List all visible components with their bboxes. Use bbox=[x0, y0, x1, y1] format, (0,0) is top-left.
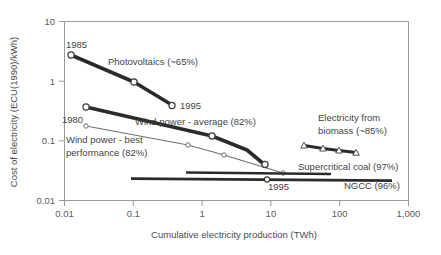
x-tick-label: 1 bbox=[199, 208, 204, 219]
y-axis-ticks bbox=[59, 22, 65, 201]
x-axis-ticks bbox=[65, 201, 409, 207]
annotation-photovoltaics: Photovoltaics (~65%) bbox=[108, 56, 198, 67]
annotation-wind-average: Wind power - average (82%) bbox=[135, 116, 256, 127]
x-tick-label: 0.01 bbox=[55, 208, 74, 219]
data-point-marker bbox=[262, 161, 268, 167]
y-tick-label: 0.01 bbox=[37, 195, 56, 206]
annotation-wind-best-line1: Wind power - best bbox=[66, 134, 143, 145]
data-point-marker bbox=[68, 52, 74, 58]
chart-figure: 10 1 0.1 0.01 0.01 0.1 1 10 100 1,000 Cu… bbox=[0, 0, 441, 255]
y-axis-tick-labels: 10 1 0.1 0.01 bbox=[37, 16, 56, 206]
series-line bbox=[186, 173, 331, 175]
x-axis-title: Cumulative electricity production (TWh) bbox=[151, 229, 317, 240]
x-tick-label: 100 bbox=[332, 208, 348, 219]
annotation-wind-best-line2: performance (82%) bbox=[66, 147, 147, 158]
annotation-year-1995-pv: 1995 bbox=[180, 100, 201, 111]
x-axis-tick-labels: 0.01 0.1 1 10 100 1,000 bbox=[55, 208, 420, 219]
chart-annotations: 1985 Photovoltaics (~65%) 1995 1980 Wind… bbox=[62, 39, 400, 192]
annotation-biomass-line2: biomass (~85%) bbox=[318, 125, 387, 136]
data-point-marker bbox=[83, 104, 89, 110]
annotation-ngcc: NGCC (96%) bbox=[344, 180, 400, 191]
series-electricity-from-biomass bbox=[301, 142, 360, 155]
data-point-marker bbox=[84, 124, 88, 128]
y-axis-title: Cost of electricity (ECU(1990)/kWh) bbox=[8, 37, 19, 187]
x-tick-label: 1,000 bbox=[397, 208, 421, 219]
x-tick-label: 0.1 bbox=[127, 208, 140, 219]
data-point-marker bbox=[209, 133, 215, 139]
data-point-marker bbox=[186, 143, 190, 147]
chart-canvas: 10 1 0.1 0.01 0.01 0.1 1 10 100 1,000 Cu… bbox=[0, 0, 441, 255]
series-supercritical-coal bbox=[186, 173, 331, 175]
data-point-marker bbox=[169, 102, 175, 108]
data-point-marker bbox=[131, 79, 137, 85]
annotation-year-1980: 1980 bbox=[62, 114, 83, 125]
y-tick-label: 0.1 bbox=[42, 135, 55, 146]
data-point-marker bbox=[222, 153, 226, 157]
y-tick-label: 1 bbox=[50, 76, 55, 87]
x-tick-label: 10 bbox=[266, 208, 277, 219]
y-tick-label: 10 bbox=[44, 16, 55, 27]
annotation-year-1985: 1985 bbox=[66, 39, 87, 50]
series-line bbox=[304, 146, 356, 153]
annotation-supercritical-coal: Supercritical coal (97%) bbox=[298, 161, 398, 172]
annotation-biomass-line1: Electricity from bbox=[318, 112, 380, 123]
annotation-year-1995-ngcc: 1995 bbox=[268, 181, 289, 192]
